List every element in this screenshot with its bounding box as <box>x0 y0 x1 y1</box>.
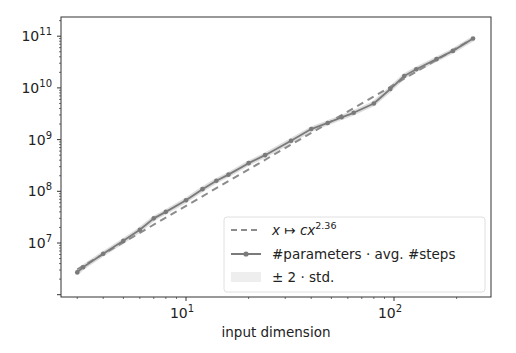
legend-label-series: #parameters · avg. #steps <box>272 246 455 262</box>
data-point <box>309 127 314 132</box>
data-point <box>200 187 205 192</box>
data-point <box>388 87 393 92</box>
data-point <box>339 115 344 120</box>
data-point <box>372 101 377 106</box>
data-point <box>81 265 86 270</box>
data-point <box>246 161 251 166</box>
data-point <box>226 172 231 177</box>
data-point <box>414 67 419 72</box>
data-point <box>351 110 356 115</box>
data-point <box>471 36 476 41</box>
data-point <box>263 153 268 158</box>
legend-marker-swatch <box>243 251 248 256</box>
data-point <box>121 239 126 244</box>
data-point <box>151 216 156 221</box>
data-point <box>451 49 456 54</box>
data-point <box>184 198 189 203</box>
data-point <box>101 251 106 256</box>
data-point <box>325 121 330 126</box>
x-tick-label: 101 <box>170 303 194 321</box>
data-point <box>138 228 143 233</box>
data-point <box>402 74 407 79</box>
y-tick-label: 108 <box>28 181 52 199</box>
data-point <box>214 178 219 183</box>
x-axis-ticks: 101102 <box>77 297 456 321</box>
x-axis-label: input dimension <box>222 324 331 340</box>
y-tick-label: 1011 <box>21 26 52 44</box>
data-point <box>434 57 439 62</box>
y-tick-label: 109 <box>28 130 52 148</box>
data-point <box>289 138 294 143</box>
legend-band-swatch <box>231 272 261 282</box>
y-tick-label: 1010 <box>21 78 52 96</box>
y-axis-ticks: 10710810910101011 <box>21 21 61 295</box>
legend: x ↦ cx2.36 #parameters · avg. #steps ± 2… <box>224 217 485 292</box>
data-point <box>164 210 169 215</box>
x-tick-label: 102 <box>378 303 402 321</box>
legend-fit-base: x ↦ cx <box>271 222 316 238</box>
chart: 101102 10710810910101011 input dimension… <box>0 0 516 353</box>
data-point <box>75 270 80 275</box>
legend-fit-exponent: 2.36 <box>315 220 336 231</box>
legend-label-band: ± 2 · std. <box>272 269 334 285</box>
y-tick-label: 107 <box>28 233 52 251</box>
